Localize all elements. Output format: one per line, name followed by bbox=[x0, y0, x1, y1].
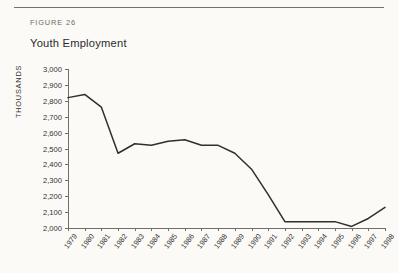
figure-title: Youth Employment bbox=[30, 37, 127, 49]
y-axis-tick bbox=[65, 117, 68, 118]
x-axis-tick bbox=[68, 228, 69, 231]
y-axis-tick bbox=[65, 196, 68, 197]
y-axis-tick bbox=[65, 101, 68, 102]
x-axis-tick bbox=[85, 228, 86, 231]
x-axis-tick-labels: 1979198019811982198319841985198619871988… bbox=[68, 232, 398, 273]
y-axis-tick-labels: 3,0002,9002,8002,7002,6002,5002,4002,300… bbox=[0, 69, 62, 228]
y-axis-tick bbox=[65, 149, 68, 150]
x-axis-tick bbox=[285, 228, 286, 231]
y-axis-tick-label: 2,300 bbox=[43, 176, 62, 185]
x-axis-tick bbox=[318, 228, 319, 231]
x-axis-tick bbox=[352, 228, 353, 231]
x-axis-tick bbox=[252, 228, 253, 231]
y-axis-tick-label: 2,900 bbox=[43, 80, 62, 89]
x-axis-line bbox=[68, 228, 385, 229]
y-axis-tick bbox=[65, 212, 68, 213]
figure-number: FIGURE 26 bbox=[30, 18, 76, 27]
x-axis-tick bbox=[118, 228, 119, 231]
x-axis-tick bbox=[302, 228, 303, 231]
y-axis-tick bbox=[65, 133, 68, 134]
line-series-youth-employment bbox=[68, 69, 385, 228]
y-axis-tick-label: 3,000 bbox=[43, 65, 62, 74]
y-axis-tick-label: 2,800 bbox=[43, 96, 62, 105]
x-axis-tick bbox=[335, 228, 336, 231]
y-axis-tick-label: 2,200 bbox=[43, 192, 62, 201]
figure-page: FIGURE 26 Youth Employment THOUSANDS 3,0… bbox=[0, 0, 398, 273]
y-axis-tick-label: 2,000 bbox=[43, 224, 62, 233]
y-axis-tick-label: 2,400 bbox=[43, 160, 62, 169]
x-axis-tick bbox=[201, 228, 202, 231]
plot-area bbox=[68, 69, 385, 228]
y-axis-tick bbox=[65, 85, 68, 86]
y-axis-tick-label: 2,700 bbox=[43, 112, 62, 121]
x-axis-tick bbox=[151, 228, 152, 231]
y-axis-tick bbox=[65, 180, 68, 181]
header-divider bbox=[14, 7, 384, 8]
x-axis-tick bbox=[218, 228, 219, 231]
x-axis-tick bbox=[385, 228, 386, 231]
y-axis-tick-label: 2,500 bbox=[43, 144, 62, 153]
y-axis-tick-label: 2,100 bbox=[43, 208, 62, 217]
x-axis-tick bbox=[135, 228, 136, 231]
x-axis-tick bbox=[235, 228, 236, 231]
y-axis-tick bbox=[65, 164, 68, 165]
x-axis-tick bbox=[368, 228, 369, 231]
y-axis-tick bbox=[65, 69, 68, 70]
x-axis-tick bbox=[101, 228, 102, 231]
x-axis-tick bbox=[168, 228, 169, 231]
x-axis-tick bbox=[185, 228, 186, 231]
x-axis-tick bbox=[268, 228, 269, 231]
y-axis-tick-label: 2,600 bbox=[43, 128, 62, 137]
